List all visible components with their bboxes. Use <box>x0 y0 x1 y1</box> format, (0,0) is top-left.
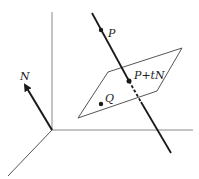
parametric-line <box>92 13 171 153</box>
normal-line-plane-diagram: N P P+tN Q <box>0 0 199 179</box>
line-lower-segment <box>141 102 171 153</box>
x-axis <box>8 130 52 176</box>
point-q <box>99 102 103 106</box>
label-p-plus-tn: P+tN <box>133 69 165 82</box>
point-p <box>99 28 103 32</box>
coordinate-axes <box>8 12 193 176</box>
label-n: N <box>19 70 30 83</box>
normal-vector-arrow <box>25 85 52 130</box>
label-q: Q <box>105 92 114 105</box>
point-p-plus-tn <box>127 79 132 84</box>
label-p: P <box>107 27 116 40</box>
